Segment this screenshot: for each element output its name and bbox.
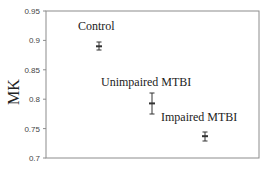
y-tick-labels: 0.95 0.9 0.85 0.8 0.75 0.7 xyxy=(24,7,40,163)
annotation-unimpaired-mtbi: Unimpaired MTBI xyxy=(101,75,191,89)
y-tick-0.95: 0.95 xyxy=(24,7,40,16)
y-tick-0.7: 0.7 xyxy=(29,154,41,163)
y-tick-0.85: 0.85 xyxy=(24,66,40,75)
annotation-control: Control xyxy=(78,19,115,33)
y-axis-label: MK xyxy=(5,79,22,105)
y-tick-0.8: 0.8 xyxy=(29,95,41,104)
y-tick-0.9: 0.9 xyxy=(29,36,41,45)
annotation-impaired-mtbi: Impaired MTBI xyxy=(161,110,237,124)
chart: 0.95 0.9 0.85 0.8 0.75 0.7 MK Control Un… xyxy=(0,0,267,169)
y-tick-0.75: 0.75 xyxy=(24,125,40,134)
